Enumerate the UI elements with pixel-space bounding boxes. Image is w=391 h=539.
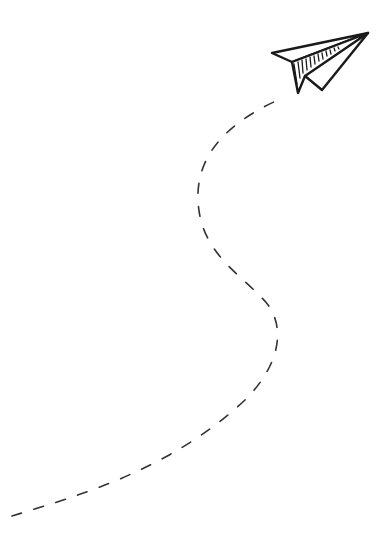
- paper-plane-illustration: [0, 0, 391, 539]
- paper-plane-icon: [272, 33, 368, 93]
- illustration: [0, 0, 391, 539]
- dashed-flight-path: [12, 97, 285, 516]
